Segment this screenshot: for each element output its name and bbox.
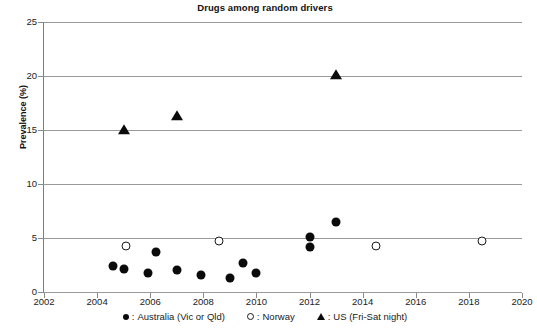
- gridline-y-25: [44, 22, 522, 23]
- y-tick-label-25: 25: [11, 16, 37, 27]
- y-tick-label-15: 15: [11, 124, 37, 135]
- gridline-y-5: [44, 238, 522, 239]
- x-tick-mark-2016: [416, 293, 417, 298]
- data-point: [151, 248, 160, 257]
- plot-area: [44, 22, 522, 292]
- legend-item-0: :Australia (Vic or Qld): [123, 311, 225, 322]
- y-tick-label-10: 10: [11, 178, 37, 189]
- data-point: [371, 241, 380, 250]
- x-tick-mark-2008: [203, 293, 204, 298]
- x-tick-mark-2002: [44, 293, 45, 298]
- legend-separator: :: [132, 311, 135, 322]
- gridline-y-10: [44, 184, 522, 185]
- x-tick-mark-2018: [469, 293, 470, 298]
- filled-circle-icon: [123, 314, 129, 320]
- data-point: [252, 268, 261, 277]
- chart-legend: :Australia (Vic or Qld):Norway:US (Fri-S…: [0, 311, 530, 322]
- x-tick-mark-2010: [256, 293, 257, 298]
- legend-label: US (Fri-Sat night): [333, 311, 407, 322]
- gridline-y-15: [44, 130, 522, 131]
- data-point: [109, 262, 118, 271]
- data-point: [196, 270, 205, 279]
- data-point: [119, 265, 128, 274]
- data-point: [478, 237, 487, 246]
- data-point: [239, 258, 248, 267]
- gridline-y-20: [44, 76, 522, 77]
- x-tick-label-2020: 2020: [500, 296, 537, 307]
- legend-item-2: :US (Fri-Sat night): [317, 311, 408, 322]
- y-tick-label-20: 20: [11, 70, 37, 81]
- filled-triangle-icon: [317, 313, 325, 320]
- legend-label: Norway: [263, 311, 295, 322]
- data-point: [143, 268, 152, 277]
- data-point: [305, 232, 314, 241]
- legend-item-1: :Norway: [247, 311, 295, 322]
- data-point: [172, 266, 181, 275]
- data-point: [332, 217, 341, 226]
- x-tick-mark-2004: [97, 293, 98, 298]
- y-tick-label-5: 5: [11, 232, 37, 243]
- data-point: [122, 241, 131, 250]
- data-point: [330, 69, 342, 79]
- x-tick-mark-2020: [522, 293, 523, 298]
- x-tick-mark-2014: [363, 293, 364, 298]
- data-point: [305, 242, 314, 251]
- legend-separator: :: [257, 311, 260, 322]
- data-point: [215, 237, 224, 246]
- legend-label: Australia (Vic or Qld): [137, 311, 224, 322]
- x-axis-line: [44, 292, 522, 293]
- legend-separator: :: [328, 311, 331, 322]
- data-point: [118, 124, 130, 134]
- y-axis-label: Prevalence (%): [18, 47, 28, 187]
- open-circle-icon: [247, 313, 254, 320]
- data-point: [225, 273, 234, 282]
- data-point: [171, 110, 183, 120]
- x-tick-mark-2006: [150, 293, 151, 298]
- chart-title: Drugs among random drivers: [0, 2, 530, 13]
- x-tick-mark-2012: [310, 293, 311, 298]
